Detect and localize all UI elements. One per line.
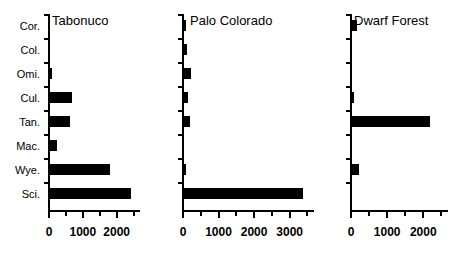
y-axis-tick-mark	[44, 38, 49, 40]
x-axis-major-tick	[350, 212, 352, 218]
bar-row	[0, 110, 160, 134]
x-axis-major-tick	[386, 212, 388, 218]
y-axis-tick-mark	[44, 182, 49, 184]
x-axis-minor-tick	[306, 212, 308, 216]
x-axis-tick-label: 0	[180, 225, 187, 239]
x-axis-tick-label: 2000	[103, 225, 130, 239]
bar-row	[160, 38, 328, 62]
x-axis-major-tick	[82, 212, 84, 218]
bar	[50, 68, 52, 79]
chart-panel-1: Cor.Col.Omi.Cul.Tan.Mac.Wye.Sci.Tabonuco…	[0, 0, 160, 257]
y-axis-tick-mark	[178, 134, 183, 136]
x-axis-minor-tick	[368, 212, 370, 216]
chart-panel-3: Dwarf Forest010002000	[328, 0, 454, 257]
plot-area	[328, 14, 454, 212]
bar	[50, 116, 70, 127]
y-axis-tick-mark	[178, 86, 183, 88]
x-axis-minor-tick	[440, 212, 442, 216]
plot-area	[0, 14, 160, 212]
panel-title: Tabonuco	[52, 13, 108, 28]
x-axis-minor-tick	[271, 212, 273, 216]
x-axis-minor-tick	[65, 212, 67, 216]
bar-rows	[0, 14, 160, 212]
bar	[184, 44, 187, 55]
bar-row	[328, 182, 454, 206]
bar-row	[328, 62, 454, 86]
bar-row	[328, 134, 454, 158]
y-axis-tick-mark	[44, 134, 49, 136]
y-axis-tick-mark	[44, 14, 49, 16]
bar	[184, 116, 190, 127]
bar-row	[0, 62, 160, 86]
x-axis-major-tick	[289, 212, 291, 218]
bar	[184, 164, 186, 175]
bar	[50, 140, 57, 151]
y-axis-tick-mark	[44, 62, 49, 64]
x-axis-tick-label: 3000	[276, 225, 303, 239]
y-axis-tick-mark	[178, 158, 183, 160]
bar	[184, 20, 186, 31]
bar-row	[0, 182, 160, 206]
x-axis-major-tick	[422, 212, 424, 218]
bar-row	[328, 38, 454, 62]
bar-rows	[328, 14, 454, 212]
bar-row	[0, 38, 160, 62]
bar-row	[160, 110, 328, 134]
bar	[352, 92, 354, 103]
bar	[184, 188, 303, 199]
bar-row	[0, 158, 160, 182]
x-axis-minor-tick	[404, 212, 406, 216]
panel-title: Palo Colorado	[190, 13, 272, 28]
x-axis-major-tick	[218, 212, 220, 218]
y-axis-tick-mark	[346, 182, 351, 184]
bar	[50, 164, 110, 175]
figure-panels: Cor.Col.Omi.Cul.Tan.Mac.Wye.Sci.Tabonuco…	[0, 0, 454, 257]
y-axis-tick-mark	[44, 86, 49, 88]
x-axis-major-tick	[253, 212, 255, 218]
y-axis-tick-mark	[346, 38, 351, 40]
bar-row	[328, 158, 454, 182]
x-axis-major-tick	[116, 212, 118, 218]
y-axis-tick-mark	[178, 182, 183, 184]
y-axis-tick-mark	[44, 158, 49, 160]
plot-area	[160, 14, 328, 212]
x-axis-minor-tick	[133, 212, 135, 216]
bar-row	[0, 134, 160, 158]
chart-panel-2: Palo Colorado0100020003000	[160, 0, 328, 257]
bar	[184, 92, 188, 103]
y-axis-tick-mark	[346, 110, 351, 112]
bar	[184, 68, 191, 79]
x-axis-minor-tick	[99, 212, 101, 216]
bar-row	[160, 182, 328, 206]
x-axis-line	[182, 210, 314, 212]
bar-row	[0, 86, 160, 110]
y-axis-tick-mark	[346, 62, 351, 64]
x-axis-tick-label: 1000	[69, 225, 96, 239]
y-axis-tick-mark	[178, 14, 183, 16]
x-axis-major-tick	[182, 212, 184, 218]
y-axis-tick-mark	[346, 14, 351, 16]
x-axis-tick-label: 2000	[241, 225, 268, 239]
x-axis-tick-label: 1000	[205, 225, 232, 239]
bar-row	[160, 62, 328, 86]
x-axis-tick-label: 0	[46, 225, 53, 239]
x-axis-minor-tick	[235, 212, 237, 216]
x-axis-tick-label: 1000	[374, 225, 401, 239]
x-axis-line	[48, 210, 140, 212]
bar-row	[160, 158, 328, 182]
x-axis-tick-label: 2000	[410, 225, 437, 239]
bar-row	[328, 110, 454, 134]
bar-row	[160, 134, 328, 158]
y-axis-tick-mark	[346, 86, 351, 88]
bar	[50, 188, 131, 199]
panel-title: Dwarf Forest	[354, 13, 428, 28]
y-axis-tick-mark	[346, 134, 351, 136]
y-axis-tick-mark	[346, 158, 351, 160]
bar-rows	[160, 14, 328, 212]
bar-row	[160, 86, 328, 110]
y-axis-tick-mark	[44, 110, 49, 112]
x-axis-line	[350, 210, 448, 212]
bar	[50, 92, 72, 103]
x-axis-major-tick	[48, 212, 50, 218]
y-axis-tick-mark	[178, 62, 183, 64]
